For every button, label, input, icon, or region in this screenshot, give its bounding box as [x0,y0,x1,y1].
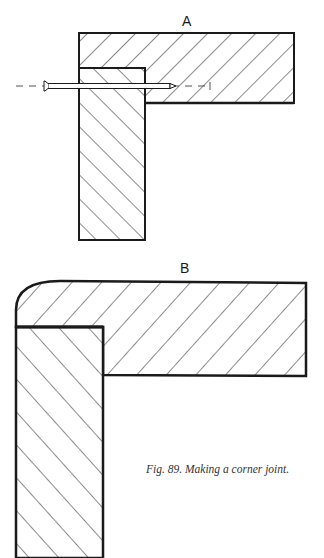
diagram-b [16,281,306,558]
figure-caption: Fig. 89. Making a corner joint. [146,463,289,475]
diagram-a [16,33,294,240]
